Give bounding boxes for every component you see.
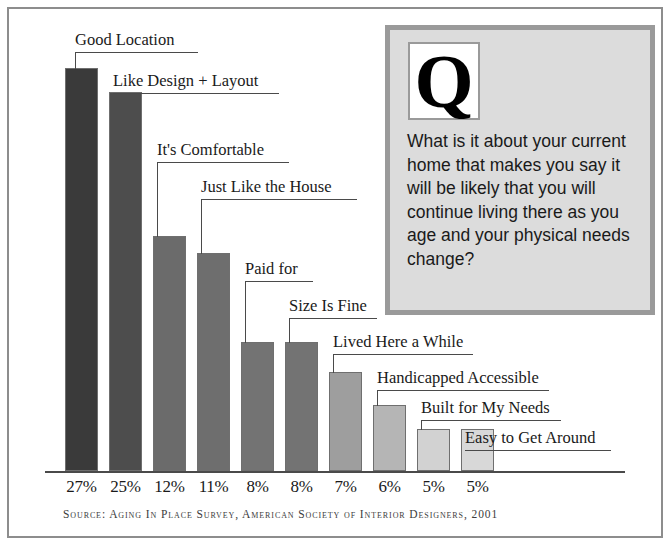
callout-3: It's Comfortable [157,162,289,163]
callout-underline [377,390,549,391]
question-box: Q What is it about your current home tha… [385,25,655,315]
callout-leader-line [421,421,422,430]
percent-label: 12% [148,477,192,497]
callout-label: Easy to Get Around [465,429,596,447]
callout-underline [245,281,313,282]
callout-underline [465,450,611,451]
percent-label: 6% [368,477,412,497]
callout-label: Like Design + Layout [113,72,258,90]
bar [153,236,186,471]
callout-7: Lived Here a While [333,354,473,355]
callout-9: Built for My Needs [421,420,561,421]
callout-leader-line [333,355,334,373]
callout-label: Handicapped Accessible [377,369,539,387]
bar [417,429,450,471]
callout-underline [289,318,377,319]
callout-leader-line [75,53,76,69]
callout-10: Easy to Get Around [465,450,611,451]
bar [329,372,362,471]
callout-label: Good Location [75,31,174,49]
callout-2: Like Design + Layout [113,93,279,94]
callout-underline [75,52,198,53]
bar [109,92,142,471]
callout-8: Handicapped Accessible [377,390,549,391]
callout-label: Just Like the House [201,178,332,196]
callout-underline [113,93,279,94]
callout-1: Good Location [75,52,198,53]
percent-label: 27% [60,477,104,497]
callout-underline [157,162,289,163]
bar [197,253,230,471]
source-citation: Source: Aging In Place Survey, American … [63,508,498,520]
question-letter-box: Q [408,42,480,120]
callout-label: Built for My Needs [421,399,550,417]
callout-4: Just Like the House [201,199,357,200]
x-axis-line [45,471,625,473]
callout-leader-line [157,163,158,237]
callout-6: Size Is Fine [289,318,377,319]
bar [373,405,406,471]
callout-5: Paid for [245,281,313,282]
percent-label: 8% [280,477,324,497]
percent-label: 11% [192,477,236,497]
callout-leader-line [289,319,290,343]
callout-leader-line [245,282,246,343]
callout-label: Paid for [245,260,298,278]
question-letter: Q [410,38,478,124]
percent-label: 5% [456,477,500,497]
question-text: What is it about your current home that … [407,130,645,271]
callout-underline [421,420,561,421]
percent-label: 25% [104,477,148,497]
bar [285,342,318,471]
percent-label: 7% [324,477,368,497]
bar [241,342,274,471]
callout-label: It's Comfortable [157,141,264,159]
callout-label: Lived Here a While [333,333,463,351]
bar [65,68,98,471]
callout-leader-line [377,391,378,406]
callout-leader-line [201,200,202,254]
callout-label: Size Is Fine [289,297,367,315]
callout-underline [333,354,473,355]
chart-figure: 27%25%12%11%8%8%7%6%5%5% Good LocationLi… [0,0,671,557]
percent-label: 5% [412,477,456,497]
percent-label: 8% [236,477,280,497]
callout-underline [201,199,357,200]
